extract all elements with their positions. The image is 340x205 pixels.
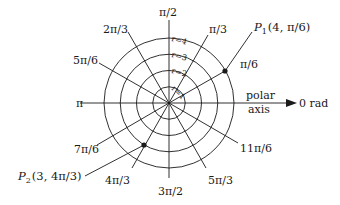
angle-label-2pi-over-3: 2π/3: [103, 23, 128, 36]
angle-label-11pi-over-6: 11π/6: [240, 142, 272, 155]
point-p1-marker: [222, 68, 227, 73]
angle-label-5pi-over-3: 5π/3: [208, 174, 233, 187]
angle-label-pi: π: [76, 97, 83, 110]
angle-label-5pi-over-6: 5π/6: [73, 54, 98, 67]
point-p2-label: P2(3, 4π/3): [17, 169, 82, 185]
point-p1-name: P: [253, 20, 262, 34]
angle-label-pi-over-6: π/6: [240, 58, 258, 71]
angle-label-7pi-over-6: 7π/6: [74, 143, 99, 156]
polar-axis-label-line2: axis: [248, 103, 270, 116]
zero-rad-label: 0 rad: [299, 97, 328, 110]
point-p2-marker: [141, 142, 146, 147]
ray-2pi-over-3: [128, 32, 169, 103]
angle-label-3pi-over-2: 3π/2: [158, 185, 183, 198]
angle-label-4pi-over-3: 4π/3: [105, 174, 130, 187]
point-p2-subscript: 2: [26, 176, 31, 185]
radius-label-r3: r=3: [171, 50, 188, 63]
radius-label-r2: r=2: [171, 66, 188, 79]
angle-label-pi-over-3: π/3: [209, 23, 227, 36]
polar-axis-label-line1: polar: [246, 89, 276, 102]
point-p1-coords: (4, π/6): [268, 20, 310, 34]
angle-label-pi-over-2: π/2: [159, 6, 177, 19]
polar-axis-arrowhead: [286, 99, 297, 107]
radius-label-r4: r=4: [171, 34, 188, 47]
point-p1-subscript: 1: [262, 27, 267, 36]
polar-grid-diagram: r=4 r=3 r=2 r=1 π/2 π/3 2π/3 5π/6 π/6 π …: [0, 0, 340, 205]
point-p2-name: P: [17, 169, 26, 183]
point-p2-coords: (3, 4π/3): [32, 169, 82, 183]
point-p1-label: P1(4, π/6): [253, 20, 310, 36]
